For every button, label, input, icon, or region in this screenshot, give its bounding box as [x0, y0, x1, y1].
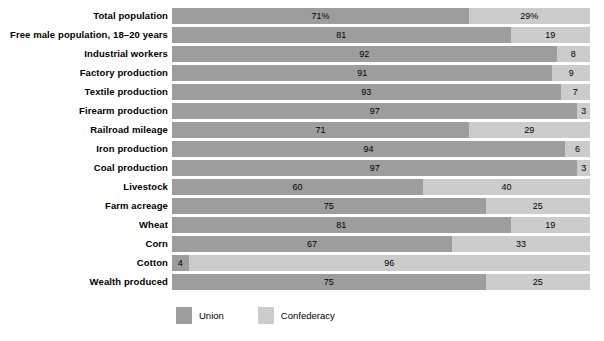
chart-legend: UnionConfederacy [176, 307, 369, 324]
bar-value-confederacy: 29% [520, 8, 538, 24]
bar-segment-confederacy: 3 [577, 103, 590, 119]
chart-row: Free male population, 18–20 years8119 [0, 27, 604, 43]
bar-value-union: 4 [178, 255, 183, 271]
bar-segment-union: 81 [172, 217, 511, 233]
bar-value-union: 97 [370, 103, 380, 119]
bar-segment-union: 93 [172, 84, 561, 100]
bar-value-confederacy: 25 [533, 198, 543, 214]
bar-value-confederacy: 6 [575, 141, 580, 157]
bar-segment-confederacy: 29 [469, 122, 590, 138]
row-label: Free male population, 18–20 years [0, 27, 172, 43]
bar-segment-confederacy: 25 [486, 274, 591, 290]
row-bar: 7525 [172, 274, 590, 290]
row-label: Industrial workers [0, 46, 172, 62]
legend-swatch [176, 307, 192, 324]
bar-value-confederacy: 3 [581, 160, 586, 176]
row-bar: 928 [172, 46, 590, 62]
row-label: Wealth produced [0, 274, 172, 290]
bar-segment-confederacy: 29% [469, 8, 590, 24]
bar-segment-union: 75 [172, 274, 486, 290]
bar-segment-confederacy: 19 [511, 217, 590, 233]
chart-row: Factory production919 [0, 65, 604, 81]
chart-row: Corn6733 [0, 236, 604, 252]
bar-segment-union: 92 [172, 46, 557, 62]
bar-value-union: 71% [311, 8, 329, 24]
bar-value-union: 93 [361, 84, 371, 100]
bar-value-confederacy: 29 [524, 122, 534, 138]
stacked-bar-chart: Total population71%29%Free male populati… [0, 0, 604, 341]
row-bar: 6733 [172, 236, 590, 252]
row-bar: 946 [172, 141, 590, 157]
bar-segment-confederacy: 40 [423, 179, 590, 195]
bar-segment-union: 67 [172, 236, 452, 252]
bar-value-confederacy: 96 [384, 255, 394, 271]
bar-value-confederacy: 33 [516, 236, 526, 252]
bar-segment-union: 4 [172, 255, 189, 271]
bar-segment-union: 97 [172, 160, 577, 176]
bar-segment-union: 97 [172, 103, 577, 119]
bar-value-union: 60 [292, 179, 302, 195]
legend-swatch [258, 307, 274, 324]
bar-segment-confederacy: 3 [577, 160, 590, 176]
chart-row: Industrial workers928 [0, 46, 604, 62]
row-label: Wheat [0, 217, 172, 233]
chart-row: Cotton496 [0, 255, 604, 271]
bar-segment-confederacy: 25 [486, 198, 591, 214]
row-bar: 7129 [172, 122, 590, 138]
chart-row: Livestock6040 [0, 179, 604, 195]
row-label: Corn [0, 236, 172, 252]
bar-segment-confederacy: 19 [511, 27, 590, 43]
row-bar: 937 [172, 84, 590, 100]
chart-row: Farm acreage7525 [0, 198, 604, 214]
bar-segment-union: 60 [172, 179, 423, 195]
bar-value-confederacy: 7 [573, 84, 578, 100]
row-label: Textile production [0, 84, 172, 100]
bar-value-union: 67 [307, 236, 317, 252]
bar-value-union: 81 [336, 27, 346, 43]
bar-segment-confederacy: 6 [565, 141, 590, 157]
row-label: Firearm production [0, 103, 172, 119]
bar-segment-confederacy: 7 [561, 84, 590, 100]
chart-row: Iron production946 [0, 141, 604, 157]
row-label: Railroad mileage [0, 122, 172, 138]
row-bar: 973 [172, 103, 590, 119]
legend-label: Confederacy [281, 307, 335, 324]
row-bar: 7525 [172, 198, 590, 214]
row-label: Cotton [0, 255, 172, 271]
row-label: Livestock [0, 179, 172, 195]
bar-value-confederacy: 19 [545, 27, 555, 43]
chart-row: Wheat8119 [0, 217, 604, 233]
bar-value-union: 71 [315, 122, 325, 138]
row-bar: 6040 [172, 179, 590, 195]
bar-segment-confederacy: 96 [189, 255, 590, 271]
bar-segment-union: 71% [172, 8, 469, 24]
row-bar: 496 [172, 255, 590, 271]
chart-row: Firearm production973 [0, 103, 604, 119]
bar-value-union: 97 [370, 160, 380, 176]
row-label: Coal production [0, 160, 172, 176]
bar-segment-union: 71 [172, 122, 469, 138]
chart-row: Wealth produced7525 [0, 274, 604, 290]
legend-item: Union [176, 307, 224, 324]
row-label: Farm acreage [0, 198, 172, 214]
chart-rows: Total population71%29%Free male populati… [0, 8, 604, 293]
legend-label: Union [199, 307, 224, 324]
bar-value-union: 91 [357, 65, 367, 81]
row-bar: 71%29% [172, 8, 590, 24]
row-bar: 973 [172, 160, 590, 176]
row-label: Iron production [0, 141, 172, 157]
bar-value-confederacy: 9 [569, 65, 574, 81]
row-bar: 919 [172, 65, 590, 81]
bar-value-union: 94 [363, 141, 373, 157]
bar-value-union: 81 [336, 217, 346, 233]
bar-value-confederacy: 3 [581, 103, 586, 119]
bar-value-union: 92 [359, 46, 369, 62]
bar-value-confederacy: 25 [533, 274, 543, 290]
bar-segment-confederacy: 33 [452, 236, 590, 252]
bar-segment-union: 91 [172, 65, 552, 81]
chart-row: Railroad mileage7129 [0, 122, 604, 138]
row-label: Factory production [0, 65, 172, 81]
legend-item: Confederacy [258, 307, 335, 324]
bar-segment-union: 81 [172, 27, 511, 43]
row-bar: 8119 [172, 27, 590, 43]
